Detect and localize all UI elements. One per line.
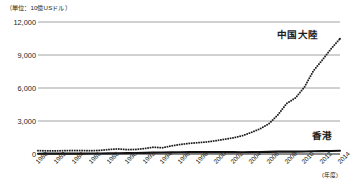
series-dot-china <box>188 143 190 145</box>
series-dot-china <box>249 132 251 134</box>
series-dot-china <box>118 148 120 150</box>
series-dot-china <box>164 146 166 148</box>
series-dot-china <box>282 108 284 110</box>
series-dot-china <box>57 150 59 152</box>
series-dot-china <box>311 73 313 75</box>
series-dot-china <box>184 143 186 145</box>
series-dot-china <box>181 143 183 145</box>
series-dot-china <box>324 56 326 58</box>
series-dot-china <box>285 104 287 106</box>
series-dot-china <box>242 135 244 137</box>
series-dot-china <box>227 138 229 140</box>
series-dot-china <box>71 150 73 152</box>
series-dot-china <box>299 92 301 94</box>
series-dot-china <box>206 141 208 143</box>
series-dot-china <box>69 150 71 152</box>
series-dot-china <box>171 145 173 147</box>
series-dot-china <box>335 42 337 44</box>
series-dot-china <box>142 148 144 150</box>
series-dot-china <box>320 61 322 63</box>
series-dot-china <box>186 143 188 145</box>
series-dot-china <box>258 129 260 131</box>
series-dot-china <box>244 134 246 136</box>
series-dot-china <box>67 150 69 152</box>
series-dot-china <box>326 54 328 56</box>
series-dot-china <box>235 137 237 139</box>
series-dot-china <box>215 140 217 142</box>
series-dot-china <box>264 125 266 127</box>
series-dot-china <box>275 116 277 118</box>
series-dot-china <box>210 141 212 143</box>
series-dot-china <box>176 144 178 146</box>
series-dot-china <box>128 149 130 151</box>
series-dot-china <box>84 150 86 152</box>
series-dot-china <box>304 86 306 88</box>
series-dot-china <box>283 106 285 108</box>
series-dot-china <box>272 119 274 121</box>
series-dot-china <box>321 59 323 61</box>
series-dot-china <box>103 149 105 151</box>
series-dot-china <box>332 46 334 48</box>
series-dot-china <box>208 141 210 143</box>
series-dot-china <box>147 147 149 149</box>
series-dot-china <box>260 128 262 130</box>
series-dot-china <box>125 149 127 151</box>
series-dot-china <box>251 131 253 133</box>
series-dot-china <box>174 145 176 147</box>
series-dot-china <box>232 137 234 139</box>
series-dot-china <box>64 150 66 152</box>
series-dot-china <box>253 130 255 132</box>
series-dot-china <box>167 146 169 148</box>
series-dot-china <box>268 123 270 125</box>
series-dot-china <box>101 149 103 151</box>
series-dot-china <box>220 139 222 141</box>
series-dot-china <box>230 137 232 139</box>
series-dot-china <box>91 150 93 152</box>
series-dot-china <box>330 48 332 50</box>
series-dot-china <box>159 147 161 149</box>
series-dot-china <box>292 99 294 101</box>
series-dot-china <box>237 136 239 138</box>
series-dot-china <box>179 144 181 146</box>
series-dot-china <box>306 82 308 84</box>
series-dot-china <box>255 130 257 132</box>
series-dot-china <box>334 44 336 46</box>
series-dot-china <box>198 142 200 144</box>
series-dot-china <box>312 71 314 73</box>
series-dot-china <box>140 148 142 150</box>
series-dot-china <box>262 126 264 128</box>
series-dot-china <box>246 133 248 135</box>
series-dot-china <box>339 38 341 40</box>
series-dot-china <box>286 102 288 104</box>
series-dot-china <box>317 65 319 67</box>
series-dot-china <box>145 148 147 150</box>
chart-container: （単位：10億USドル） 12,000 9,000 6,000 3,000 0 … <box>0 0 358 186</box>
series-dot-china <box>86 150 88 152</box>
series-dot-china <box>201 142 203 144</box>
series-dot-china <box>157 147 159 149</box>
series-dot-china <box>152 146 154 148</box>
series-dot-china <box>288 101 290 103</box>
series-dot-china <box>305 84 307 86</box>
series-label-china: 中国大陸 <box>277 27 318 41</box>
series-dot-china <box>49 150 51 152</box>
series-dot-china <box>277 114 279 116</box>
series-dot-china <box>274 117 276 119</box>
series-dot-china <box>323 58 325 60</box>
series-dot-china <box>89 150 91 152</box>
series-dot-china <box>191 142 193 144</box>
series-dot-china <box>225 138 227 140</box>
series-dot-china <box>37 150 39 152</box>
series-dot-china <box>47 150 49 152</box>
series-dot-china <box>196 142 198 144</box>
series-dot-china <box>108 149 110 151</box>
series-dot-china <box>280 110 282 112</box>
series-dot-china <box>337 41 339 43</box>
series-dot-china <box>155 146 157 148</box>
series-dot-china <box>123 149 125 151</box>
series-dot-china <box>74 150 76 152</box>
series-dot-china <box>218 139 220 141</box>
series-dot-china <box>162 147 164 149</box>
series-dot-china <box>307 80 309 82</box>
series-dot-china <box>213 140 215 142</box>
